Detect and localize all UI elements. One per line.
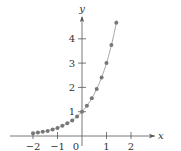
data-point xyxy=(36,131,40,135)
data-point xyxy=(65,121,69,125)
x-tick-label: −1 xyxy=(50,141,65,151)
data-point xyxy=(109,43,113,47)
data-point xyxy=(105,61,109,65)
axes xyxy=(10,16,155,146)
data-point xyxy=(80,110,84,114)
y-tick-label: 1 xyxy=(69,106,75,117)
x-tick-label: −2 xyxy=(26,141,41,151)
data-point xyxy=(90,96,94,100)
data-point xyxy=(41,130,45,134)
exponential-chart: −2−10121234xy xyxy=(0,0,181,151)
chart-svg: −2−10121234xy xyxy=(0,0,181,151)
x-tick-label: 2 xyxy=(128,141,134,151)
data-point xyxy=(70,118,74,122)
axis-labels: −2−10121234xy xyxy=(26,3,164,151)
data-point xyxy=(95,87,99,91)
y-axis-label: y xyxy=(78,3,85,14)
y-tick-label: 2 xyxy=(69,82,75,93)
data-point xyxy=(56,126,60,130)
data-point xyxy=(100,75,104,79)
data-point xyxy=(114,21,118,25)
data-point xyxy=(60,124,64,128)
data-point xyxy=(85,104,89,108)
x-axis-label: x xyxy=(158,130,164,141)
data-point xyxy=(31,131,35,135)
y-tick-label: 3 xyxy=(69,58,75,69)
data-point xyxy=(51,127,55,131)
x-tick-label: 1 xyxy=(103,141,109,151)
y-tick-label: 4 xyxy=(69,33,75,44)
x-tick-label: 0 xyxy=(73,141,79,151)
data-point xyxy=(75,115,79,119)
data-point xyxy=(46,129,50,133)
